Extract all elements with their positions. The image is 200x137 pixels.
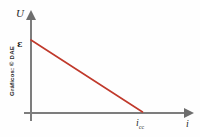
credit-watermark: Gráficos: © DAE bbox=[9, 36, 15, 106]
x-axis-label: i bbox=[186, 118, 189, 129]
chart-figure: U i ε icc Gráficos: © DAE bbox=[0, 0, 200, 137]
emf-tick-label: ε bbox=[17, 39, 22, 49]
short-circuit-current-tick-label: icc bbox=[136, 117, 144, 130]
curve-plot-area bbox=[0, 0, 200, 137]
y-axis-label: U bbox=[16, 7, 24, 19]
icc-subscript: cc bbox=[139, 124, 144, 130]
characteristic-curve-line bbox=[31, 40, 143, 112]
